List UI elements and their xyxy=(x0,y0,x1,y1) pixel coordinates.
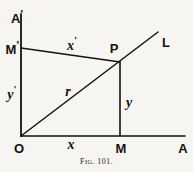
ray-o-l-line xyxy=(21,32,158,136)
caption-suffix: . 101. xyxy=(93,157,113,166)
label-point-m: M xyxy=(116,142,127,155)
label-point-m-prime-prime: ' xyxy=(16,39,19,51)
diagram-canvas xyxy=(0,0,193,172)
label-axis-horizontal-end-a: A xyxy=(178,142,187,155)
figure-caption: FIG. 101. xyxy=(0,157,193,166)
label-segment-y: y xyxy=(126,96,132,110)
caption-smallcaps: IG xyxy=(85,158,93,165)
label-segment-y-prime: y' xyxy=(7,84,16,102)
label-axis-vertical-top: A' xyxy=(11,9,23,25)
label-segment-x-prime: x' xyxy=(67,35,77,53)
label-origin-o: O xyxy=(14,142,24,155)
figure-101: A' M' P L O M A x' y' r x y FIG. 101. xyxy=(0,0,193,172)
label-segment-y-prime-prime: ' xyxy=(14,83,17,95)
label-segment-x-prime-prime: ' xyxy=(74,34,77,46)
label-point-p: P xyxy=(110,42,119,55)
label-segment-r: r xyxy=(65,85,70,99)
label-axis-vertical-top-text: A xyxy=(11,11,20,26)
label-point-m-prime: M' xyxy=(6,40,19,56)
label-axis-vertical-top-prime: ' xyxy=(20,8,23,20)
label-segment-x: x xyxy=(68,138,75,152)
label-point-m-prime-text: M xyxy=(6,42,17,57)
label-ray-end-l: L xyxy=(162,36,170,49)
label-segment-x-prime-text: x xyxy=(67,38,74,53)
